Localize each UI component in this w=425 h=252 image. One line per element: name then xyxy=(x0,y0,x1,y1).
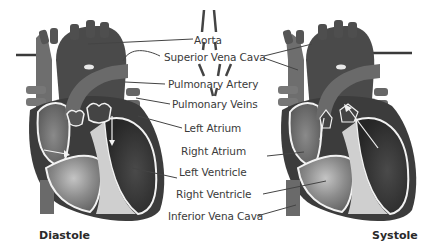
label-pulmonary-veins: Pulmonary Veins xyxy=(172,98,258,110)
label-right-ventricle: Right Ventricle xyxy=(176,188,251,200)
label-left-ventricle: Left Ventricle xyxy=(179,166,247,178)
label-aorta: Aorta xyxy=(194,34,222,46)
panel-title-systole: Systole xyxy=(372,230,418,242)
systole-heart xyxy=(278,20,416,221)
label-superior-vena-cava: Superior Vena Cava xyxy=(164,51,266,63)
heart-diagram: Aorta Superior Vena Cava Pulmonary Arter… xyxy=(0,0,425,252)
label-right-atrium: Right Atrium xyxy=(181,145,246,157)
label-pulmonary-artery: Pulmonary Artery xyxy=(168,78,258,90)
label-inferior-vena-cava: Inferior Vena Cava xyxy=(168,210,263,222)
panel-title-diastole: Diastole xyxy=(39,230,90,242)
diastole-heart xyxy=(16,20,164,221)
label-left-atrium: Left Atrium xyxy=(184,122,241,134)
